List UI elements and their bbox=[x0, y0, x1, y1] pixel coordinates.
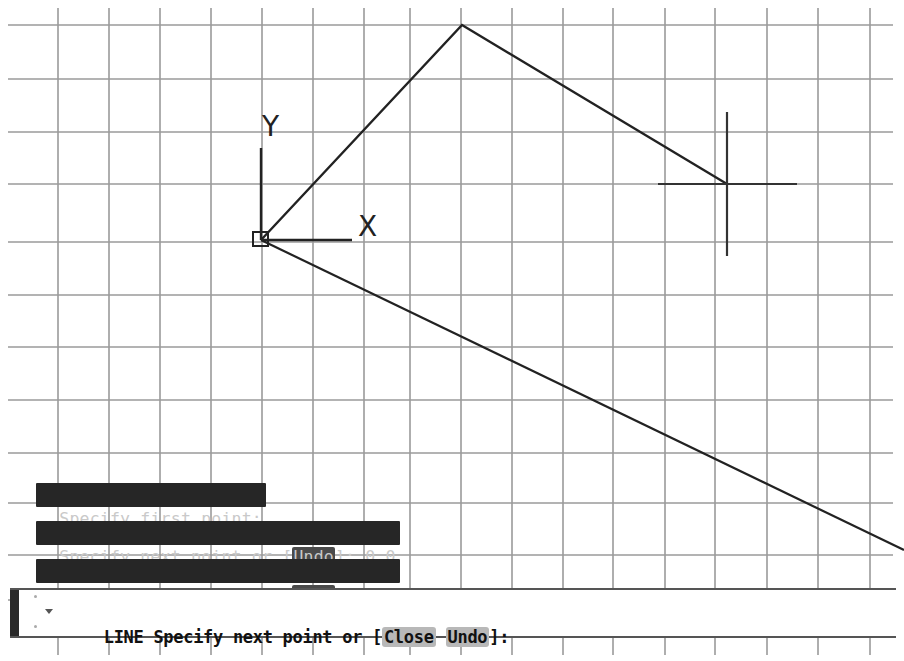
command-history-line-2: Specify next point or [Undo]: 0,0 bbox=[36, 521, 400, 545]
command-line[interactable]: LINE Specify next point or [Close Undo]: bbox=[10, 588, 896, 638]
command-prompt[interactable]: LINE Specify next point or [Close Undo]: bbox=[64, 601, 509, 625]
command-history-line-1: Specify first point: bbox=[36, 483, 266, 507]
prompt-text: Specify next point or [ bbox=[144, 627, 382, 647]
grip-dot-icon bbox=[34, 625, 37, 628]
drawn-lines bbox=[261, 25, 904, 550]
option-close[interactable]: Close bbox=[382, 627, 436, 647]
ucs-x-axis-label: X bbox=[358, 213, 377, 241]
command-line-drag-handle[interactable] bbox=[10, 590, 19, 636]
crosshair-cursor bbox=[658, 112, 797, 256]
grip-dot-icon bbox=[34, 595, 37, 598]
active-command-name: LINE bbox=[104, 627, 144, 647]
option-undo[interactable]: Undo bbox=[446, 627, 490, 647]
recent-commands-dropdown-icon[interactable] bbox=[42, 604, 56, 618]
ucs-y-axis-label: Y bbox=[262, 113, 279, 141]
command-history-line-3: Specify next point or [Undo]: 2,2 bbox=[36, 559, 400, 583]
prompt-suffix: ]: bbox=[489, 627, 509, 647]
